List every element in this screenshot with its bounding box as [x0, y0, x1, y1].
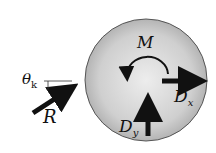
dy-label-sub: y [133, 127, 139, 138]
dx-label-main: D [174, 86, 188, 106]
r-label: R [43, 108, 57, 126]
dx-label: Dx [174, 88, 193, 105]
dx-label-sub: x [188, 97, 194, 108]
moment-label: M [137, 35, 153, 51]
theta-label-sub: k [31, 79, 37, 90]
theta-label-main: θ [22, 70, 31, 88]
dy-label: Dy [119, 118, 138, 135]
free-body-diagram: M Dx Dy R θk [0, 0, 216, 153]
theta-label: θk [22, 72, 37, 87]
dy-label-main: D [119, 116, 133, 136]
